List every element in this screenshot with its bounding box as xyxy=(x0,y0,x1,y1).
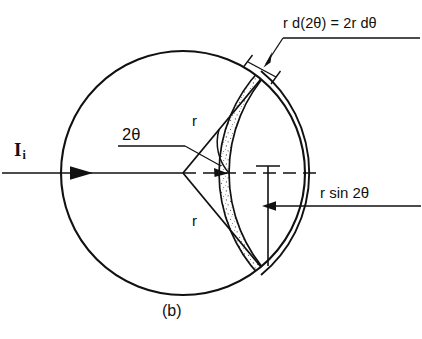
figure-container: r d(2θ) = 2r dθ r sin 2θ 2θ r r Ii (b) xyxy=(0,0,422,339)
incident-intensity-subscript: i xyxy=(21,148,25,162)
top-label-arrowhead xyxy=(264,52,273,68)
radius-label-lower: r xyxy=(192,213,197,228)
diagram-svg xyxy=(0,0,422,339)
incident-beam-arrowhead xyxy=(70,166,93,180)
r-sin-2theta-label: r sin 2θ xyxy=(320,185,369,200)
figure-caption: (b) xyxy=(162,303,182,319)
band-width-label: r d(2θ) = 2r dθ xyxy=(283,16,377,31)
rsin-label-arrowhead xyxy=(262,201,276,211)
two-theta-label: 2θ xyxy=(122,126,140,143)
radius-label-upper: r xyxy=(192,113,197,128)
incident-intensity-label: Ii xyxy=(14,140,26,161)
